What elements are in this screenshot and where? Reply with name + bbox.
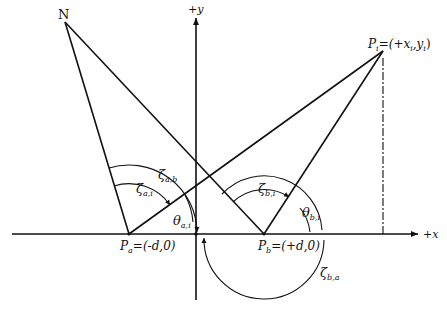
zeta-ai-sub: a,i (143, 189, 153, 198)
zeta-ab-symbol: ζ (158, 167, 165, 182)
angle-theta-ai-label: θa,i (173, 214, 191, 230)
angle-zeta-ba-label: ζb,a (320, 266, 339, 282)
angle-zeta-ai-label: ζa,i (136, 182, 153, 198)
point-pa-label: Pa=(-d,0) (120, 240, 175, 255)
pi-coords-mid: ,y (413, 37, 424, 51)
x-axis-label: +x (423, 229, 438, 240)
pi-coords-a: =(+x (379, 37, 411, 51)
zeta-ab-sub: a,b (165, 175, 177, 184)
pa-dot (128, 233, 131, 236)
zeta-ba-sub: b,a (327, 273, 339, 282)
pa-letter: P (120, 239, 128, 253)
pa-coords: =(-d,0) (133, 239, 176, 253)
pb-letter: P (258, 239, 266, 253)
y-axis-label-text: +y (188, 3, 203, 16)
theta-ai-symbol: θ (173, 213, 181, 228)
point-n-label: N (58, 8, 69, 21)
point-pi-label: Pi=(+xi,yi) (368, 38, 431, 53)
zeta-ba-symbol: ζ (320, 265, 327, 280)
origin-dot (194, 232, 198, 236)
point-pb-label: Pb=(+d,0) (258, 240, 320, 255)
pi-coords-end: ) (426, 37, 431, 51)
line-pb-pi (264, 51, 383, 234)
theta-bi-sub: b,i (310, 213, 320, 222)
angle-zeta-ab-label: ζa,b (158, 168, 177, 184)
diagram-canvas: N +y +x Pi=(+xi,yi) Pa=(-d,0) Pb=(+d,0) … (0, 0, 447, 309)
zeta-bi-symbol: ζ (258, 181, 265, 196)
pb-coords: =(+d,0) (271, 239, 320, 253)
pb-dot (263, 233, 266, 236)
line-pa-pi (129, 51, 383, 234)
line-n-pb (65, 22, 264, 234)
zeta-bi-sub: b,i (265, 189, 275, 198)
angle-zeta-bi-label: ζb,i (258, 182, 275, 198)
y-axis-label: +y (188, 4, 203, 15)
line-n-pa (65, 22, 129, 234)
theta-ai-sub: a,i (181, 221, 191, 230)
angle-theta-bi-label: θb,i (302, 206, 320, 222)
pi-letter: P (368, 37, 376, 51)
theta-bi-symbol: θ (302, 205, 310, 220)
zeta-ai-symbol: ζ (136, 181, 143, 196)
